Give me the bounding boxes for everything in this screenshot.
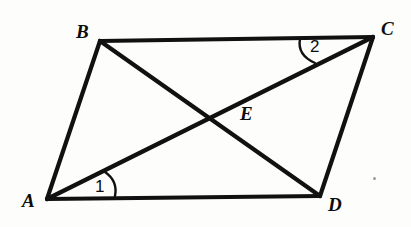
vertex-label-A: A [22,191,35,210]
scan-speck-artifact [373,177,376,180]
angle-label-1: 1 [95,178,104,195]
vertex-label-E: E [240,104,253,123]
side-BC [100,37,373,41]
geometry-figure: A B C D E 1 2 [0,0,411,227]
angle-1-arc [105,172,116,196]
diagonals [47,37,373,199]
vertex-label-D: D [328,195,342,214]
diagonal-BD [100,41,320,196]
figure-canvas [0,0,411,227]
side-DA [47,196,320,199]
vertex-label-B: B [76,22,89,41]
vertex-label-C: C [381,19,394,38]
angle-label-2: 2 [310,38,319,55]
